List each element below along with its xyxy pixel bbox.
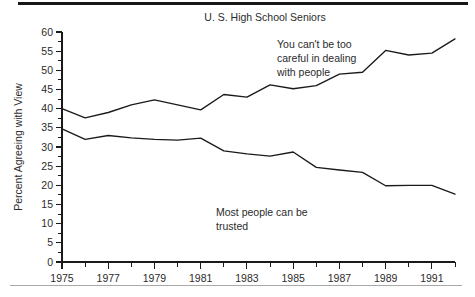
y-tick-label: 30 xyxy=(41,141,53,153)
x-tick-label: 1991 xyxy=(420,272,444,284)
series-line-careful xyxy=(62,39,455,118)
x-tick-label: 1985 xyxy=(281,272,305,284)
y-axis-label: Percent Agreeing with View xyxy=(12,83,24,211)
x-tick-label: 1979 xyxy=(143,272,167,284)
x-axis-ticks: 197519771979198119831985198719891991 xyxy=(50,262,455,284)
y-tick-label: 55 xyxy=(41,45,53,57)
chart-title: U. S. High School Seniors xyxy=(204,11,325,23)
y-axis-ticks: 051015202530354045505560 xyxy=(41,26,62,268)
y-tick-label: 35 xyxy=(41,121,53,133)
x-tick-label: 1981 xyxy=(189,272,213,284)
annotation-careful-line3: with people xyxy=(276,66,330,78)
annotation-trusted-line2: trusted xyxy=(216,220,248,232)
x-tick-label: 1975 xyxy=(50,272,74,284)
annotation-trusted-line1: Most people can be xyxy=(216,206,308,218)
y-tick-label: 10 xyxy=(41,217,53,229)
annotation-careful-line1: You can't be too xyxy=(277,38,352,50)
y-tick-label: 20 xyxy=(41,179,53,191)
y-tick-label: 40 xyxy=(41,102,53,114)
annotation-careful-line2: careful in dealing xyxy=(277,52,357,64)
y-tick-label: 15 xyxy=(41,198,53,210)
series-line-trusted xyxy=(62,129,455,194)
x-tick-label: 1989 xyxy=(374,272,398,284)
y-tick-label: 60 xyxy=(41,26,53,38)
figure-container: U. S. High School Seniors Percent Agreei… xyxy=(0,0,475,297)
y-tick-label: 50 xyxy=(41,64,53,76)
y-tick-label: 45 xyxy=(41,83,53,95)
y-tick-label: 5 xyxy=(47,236,53,248)
y-tick-label: 25 xyxy=(41,160,53,172)
x-tick-label: 1983 xyxy=(235,272,259,284)
line-chart: U. S. High School Seniors Percent Agreei… xyxy=(0,0,475,297)
x-tick-label: 1977 xyxy=(97,272,121,284)
x-tick-label: 1987 xyxy=(328,272,352,284)
y-tick-label: 0 xyxy=(47,256,53,268)
